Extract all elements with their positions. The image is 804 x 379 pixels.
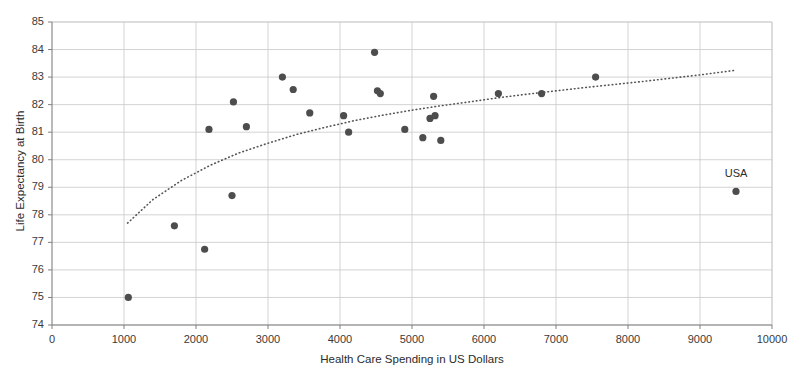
x-tick-label: 3000 (238, 333, 298, 345)
plot-frame (48, 22, 772, 329)
y-tick-label: 77 (12, 235, 44, 247)
scatter-chart: 7475767778798081828384850100020003000400… (0, 0, 804, 379)
trendline (128, 70, 736, 223)
y-tick-label: 76 (12, 263, 44, 275)
y-tick-label: 83 (12, 70, 44, 82)
data-points (125, 49, 740, 301)
x-tick-label: 0 (22, 333, 82, 345)
gridlines (52, 22, 772, 325)
plot-area (0, 0, 804, 379)
x-axis-title: Health Care Spending in US Dollars (302, 353, 522, 365)
y-tick-label: 84 (12, 43, 44, 55)
x-tick-label: 7000 (526, 333, 586, 345)
x-tick-label: 1000 (94, 333, 154, 345)
y-tick-label: 74 (12, 318, 44, 330)
y-axis-title: Life Expectancy at Birth (14, 106, 26, 236)
point-annotation-usa: USA (716, 167, 756, 179)
x-tick-label: 6000 (454, 333, 514, 345)
y-tick-label: 75 (12, 290, 44, 302)
x-tick-label: 2000 (166, 333, 226, 345)
y-tick-label: 85 (12, 15, 44, 27)
x-tick-label: 8000 (598, 333, 658, 345)
x-tick-label: 10000 (742, 333, 802, 345)
x-tick-label: 5000 (382, 333, 442, 345)
x-tick-label: 4000 (310, 333, 370, 345)
x-tick-label: 9000 (670, 333, 730, 345)
